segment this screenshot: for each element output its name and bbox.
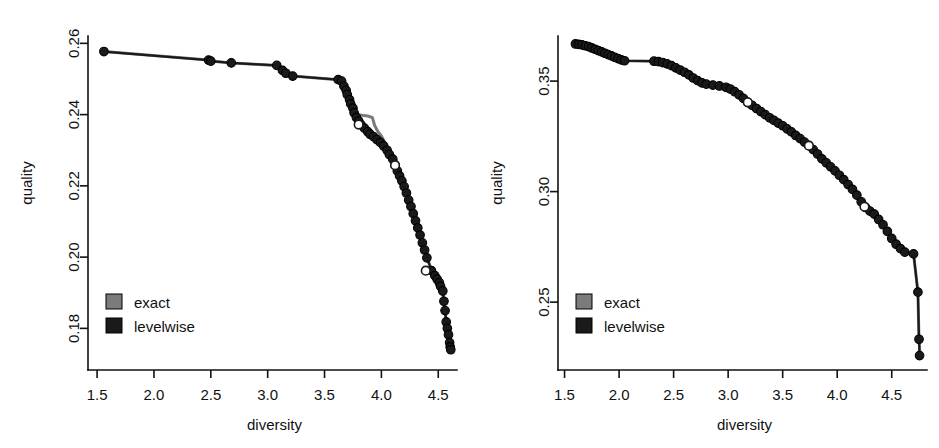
x-tick-label: 2.5 (663, 386, 684, 403)
x-tick-label: 1.5 (554, 386, 575, 403)
data-point (227, 59, 236, 68)
x-tick-label: 3.0 (718, 386, 739, 403)
x-tick-group: 1.52.02.53.03.54.04.5 (87, 370, 449, 403)
chart-panel-right: 0.250.300.351.52.02.53.03.54.04.5diversi… (470, 0, 939, 448)
legend-swatch-exact (106, 294, 122, 309)
y-tick-label: 0.22 (66, 171, 83, 200)
x-tick-label: 2.0 (144, 386, 165, 403)
data-point (914, 288, 923, 297)
data-point (915, 335, 924, 344)
y-tick-label: 0.25 (536, 288, 553, 317)
data-point (423, 254, 432, 263)
data-point (901, 248, 910, 257)
data-point (441, 306, 450, 315)
data-point (416, 231, 425, 240)
data-point (915, 351, 924, 360)
legend-label-levelwise: levelwise (604, 318, 665, 335)
y-tick-group: 0.180.200.220.240.26 (66, 29, 89, 343)
data-point (444, 330, 453, 339)
legend-swatch-levelwise (576, 318, 592, 333)
y-axis-title: quality (18, 161, 35, 205)
chart-svg-left: 0.180.200.220.240.261.52.02.53.03.54.04.… (0, 0, 469, 448)
data-point-outlier (805, 141, 814, 150)
legend: exactlevelwise (576, 294, 665, 335)
y-tick-label: 0.35 (536, 66, 553, 95)
series-markers-levelwise (571, 40, 924, 360)
legend-swatch-levelwise (106, 318, 122, 333)
x-tick-label: 2.5 (200, 386, 221, 403)
y-tick-label: 0.26 (66, 29, 83, 58)
data-point (440, 297, 449, 306)
x-tick-label: 4.0 (827, 386, 848, 403)
y-tick-group: 0.250.300.35 (536, 66, 559, 316)
data-point-outlier (421, 266, 430, 275)
legend-swatch-exact (576, 294, 592, 309)
data-point-outlier (743, 98, 752, 107)
data-point-outlier (354, 120, 363, 129)
chart-panel-left: 0.180.200.220.240.261.52.02.53.03.54.04.… (0, 0, 469, 448)
legend-label-exact: exact (134, 294, 171, 311)
data-point (446, 345, 455, 354)
data-point (207, 57, 216, 66)
data-point (420, 246, 429, 255)
x-axis-title: diversity (247, 416, 303, 433)
x-tick-group: 1.52.02.53.03.54.04.5 (554, 370, 902, 403)
y-tick-label: 0.30 (536, 177, 553, 206)
x-tick-label: 3.5 (314, 386, 335, 403)
data-point (909, 250, 918, 259)
x-tick-label: 3.5 (772, 386, 793, 403)
data-point (620, 56, 629, 65)
data-point-outlier (860, 202, 869, 211)
legend-label-levelwise: levelwise (134, 318, 195, 335)
y-tick-label: 0.20 (66, 243, 83, 272)
chart-svg-right: 0.250.300.351.52.02.53.03.54.04.5diversi… (470, 0, 939, 448)
data-point (100, 47, 109, 56)
data-point (439, 287, 448, 296)
x-tick-label: 4.5 (428, 386, 449, 403)
x-tick-label: 4.5 (881, 386, 902, 403)
x-tick-label: 2.0 (609, 386, 630, 403)
legend: exactlevelwise (106, 294, 195, 335)
x-axis-title: diversity (717, 416, 773, 433)
legend-label-exact: exact (604, 294, 641, 311)
x-tick-label: 3.0 (257, 386, 278, 403)
y-tick-label: 0.24 (66, 100, 83, 129)
y-axis-title: quality (488, 161, 505, 205)
data-point (288, 72, 297, 81)
data-group (571, 40, 924, 360)
figure-root: 0.180.200.220.240.261.52.02.53.03.54.04.… (0, 0, 939, 448)
data-point-outlier (391, 161, 400, 170)
y-tick-label: 0.18 (66, 314, 83, 343)
x-tick-label: 1.5 (87, 386, 108, 403)
x-tick-label: 4.0 (371, 386, 392, 403)
